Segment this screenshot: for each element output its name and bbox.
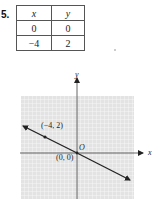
- point-neg4-2: [43, 135, 46, 138]
- y-axis-label: y: [75, 70, 79, 79]
- point-origin: [76, 152, 79, 155]
- x-axis-label: x: [148, 148, 152, 157]
- origin-label: O: [79, 143, 85, 152]
- point-label-neg4-2: (−4, 2): [41, 121, 63, 130]
- coordinate-graph: [0, 0, 165, 199]
- grid: [21, 96, 134, 199]
- point-label-origin: (0, 0): [56, 153, 73, 162]
